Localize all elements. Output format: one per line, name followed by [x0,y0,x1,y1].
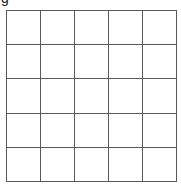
grid-cell [40,10,74,44]
grid-cell [142,147,176,181]
grid-cell [142,113,176,147]
grid-cell [6,44,40,78]
grid-diagram [6,10,177,182]
grid-cell [142,44,176,78]
grid-cell [74,147,108,181]
grid-cell [6,113,40,147]
grid-cell [40,147,74,181]
grid-cell [108,147,142,181]
grid-cell [108,78,142,112]
grid-cell [142,10,176,44]
grid-cell [6,78,40,112]
grid-cell [108,113,142,147]
grid-cell [6,10,40,44]
grid-cell [108,44,142,78]
grid-cell [40,78,74,112]
grid-cell [6,147,40,181]
grid-cell [74,10,108,44]
grid-cell [40,44,74,78]
grid-cell [40,113,74,147]
grid-cell [74,44,108,78]
grid-cell [142,78,176,112]
grid-cell [74,78,108,112]
grid-cell [108,10,142,44]
grid-cell [74,113,108,147]
cutoff-label: g [1,0,9,5]
